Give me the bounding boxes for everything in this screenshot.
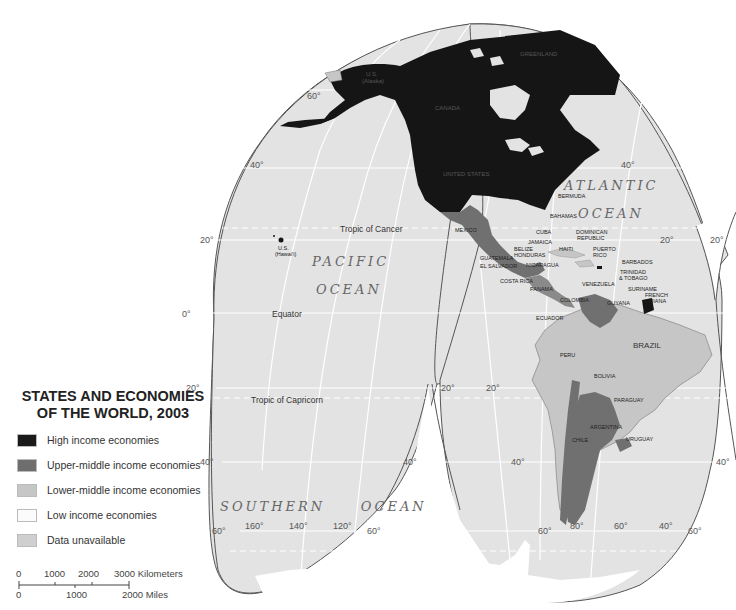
ocean-label-atlantic-2: OCEAN [578, 206, 644, 221]
scale-km-label: 1000 [44, 568, 65, 579]
deg-label: 60° [614, 521, 628, 531]
legend-label: Lower-middle income economies [47, 484, 201, 496]
label-tropic-of-cancer: Tropic of Cancer [340, 224, 403, 234]
legend-item-upper-middle-income: Upper-middle income economies [8, 455, 218, 475]
deg-label: 80° [570, 521, 584, 531]
country-label-canada: CANADA [435, 105, 460, 111]
scale-mile-label: 2000 Miles [122, 589, 168, 600]
country-label-cuba: CUBA [536, 229, 552, 235]
legend-swatch [17, 509, 37, 522]
country-label-bolivia: BOLIVIA [594, 373, 616, 379]
deg-label: 40° [250, 160, 264, 170]
scale-km-label: 0 [16, 568, 21, 579]
country-label-alaska: U.S. [366, 71, 378, 77]
country-label-barbados: BARBADOS [622, 259, 653, 265]
legend-label: Upper-middle income economies [47, 459, 201, 471]
deg-label: 40° [716, 457, 730, 467]
scale-mile-label: 1000 [66, 589, 87, 600]
country-label-colombia: COLOMBIA [560, 297, 589, 303]
deg-label: 60° [688, 526, 702, 536]
legend-item-low-income: Low income economies [8, 505, 218, 525]
deg-label: 20° [441, 383, 455, 393]
legend-swatch [17, 484, 37, 497]
deg-label: 160° [245, 521, 264, 531]
legend-title: STATES AND ECONOMIES OF THE WORLD, 2003 [8, 388, 218, 422]
country-label-uruguay: URUGUAY [626, 436, 653, 442]
country-label-mexico: MEXICO [455, 227, 477, 233]
legend-swatch [17, 534, 37, 547]
country-label-costa-rica: COSTA RICA [500, 278, 533, 284]
country-label-bahamas: BAHAMAS [550, 213, 577, 219]
label-equator: Equator [272, 309, 302, 319]
deg-label: 60° [538, 526, 552, 536]
country-label-united-states: UNITED STATES [443, 171, 489, 177]
country-label-puerto-rico: RICO [593, 252, 607, 258]
legend-item-data-unavailable: Data unavailable [8, 530, 218, 550]
deg-label: 60° [307, 91, 321, 101]
country-label-trinidad: & TOBAGO [619, 275, 648, 281]
legend-item-high-income: High income economies [8, 430, 218, 450]
country-label-venezuela: VENEZUELA [582, 281, 615, 287]
deg-label: 40° [621, 160, 635, 170]
legend-label: Low income economies [47, 509, 157, 521]
ocean-label-pacific-2: OCEAN [316, 282, 382, 297]
deg-label: 40° [403, 457, 417, 467]
legend-swatch [17, 434, 37, 447]
deg-label: 140° [289, 521, 308, 531]
deg-label: 40° [511, 457, 525, 467]
deg-label: 60° [367, 526, 381, 536]
deg-label: 120° [333, 521, 352, 531]
country-label-chile: CHILE [572, 437, 589, 443]
legend-label: Data unavailable [47, 534, 125, 546]
country-label-el-salvador: EL SALVADOR [480, 263, 517, 269]
deg-label: 20° [660, 235, 674, 245]
legend-title-line2: OF THE WORLD, 2003 [8, 405, 218, 422]
legend-swatch [17, 459, 37, 472]
scale-km-label: 3000 Kilometers [114, 568, 183, 579]
country-label-guyana: GUYANA [607, 300, 630, 306]
country-label-ecuador: ECUADOR [536, 315, 564, 321]
scale-km-label: 2000 [78, 568, 99, 579]
deg-label: 0° [182, 309, 191, 319]
country-label-jamaica: JAMAICA [528, 239, 552, 245]
deg-label: 20° [710, 235, 724, 245]
country-label-paraguay: PARAGUAY [614, 397, 644, 403]
country-label-guatemala: GUATEMALA [480, 255, 514, 261]
label-tropic-of-capricorn: Tropic of Capricorn [251, 395, 323, 405]
country-label-argentina: ARGENTINA [590, 424, 622, 430]
ocean-label-pacific-1: PACIFIC [311, 254, 389, 269]
country-label-dominican: REPUBLIC [577, 235, 605, 241]
deg-label: 20° [486, 383, 500, 393]
country-label-greenland: GREENLAND [520, 51, 558, 57]
ocean-label-southern: SOUTHERN OCEAN [220, 499, 427, 514]
legend-title-line1: STATES AND ECONOMIES [8, 388, 218, 405]
country-label-nicaragua: NICARAGUA [526, 262, 559, 268]
legend-label: High income economies [47, 434, 159, 446]
country-label-brazil: BRAZIL [633, 341, 662, 350]
deg-label: 20° [200, 235, 214, 245]
country-label-panama: PANAMA [530, 286, 553, 292]
country-label-hawaii: (Hawai'i) [275, 251, 296, 257]
scale-mile-label: 0 [16, 589, 21, 600]
legend: STATES AND ECONOMIES OF THE WORLD, 2003 … [8, 388, 218, 555]
country-label-peru: PERU [560, 352, 575, 358]
legend-item-lower-middle-income: Lower-middle income economies [8, 480, 218, 500]
country-label-bermuda: BERMUDA [558, 193, 586, 199]
deg-label: 40° [659, 521, 673, 531]
country-label-alaska: (Alaska) [362, 78, 384, 84]
country-label-french-guiana: GUIANA [645, 298, 666, 304]
country-label-honduras: HONDURAS [514, 252, 546, 258]
country-label-haiti: HAITI [559, 246, 574, 252]
ocean-label-atlantic-1: ATLANTIC [563, 178, 659, 193]
scale-bar: 0 1000 2000 3000 Kilometers 0 1000 2000 … [16, 568, 216, 602]
